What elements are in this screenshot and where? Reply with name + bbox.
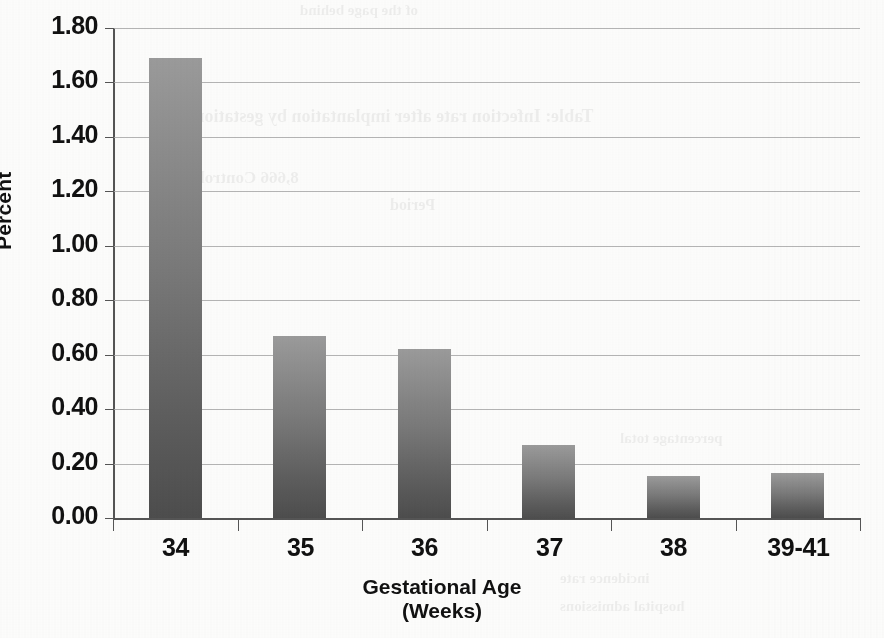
y-axis-tick-label: 1.60 — [8, 65, 98, 94]
y-axis-tick-label: 0.60 — [8, 338, 98, 367]
y-axis-tick-label: 0.40 — [8, 392, 98, 421]
x-axis-tick-label: 38 — [611, 533, 736, 562]
gridline — [113, 28, 860, 29]
x-axis-tick — [487, 518, 488, 531]
gridline — [113, 409, 860, 410]
y-axis-tick — [105, 28, 114, 29]
x-axis-tick — [860, 518, 861, 531]
y-axis-tick-label: 1.80 — [8, 11, 98, 40]
x-axis-tick — [362, 518, 363, 531]
y-axis-line — [113, 28, 115, 519]
gridline — [113, 191, 860, 192]
bar-chart: Percent 1.801.601.401.201.000.800.600.40… — [0, 0, 884, 638]
gridline — [113, 300, 860, 301]
y-axis-tick-label: 1.20 — [8, 174, 98, 203]
y-axis-tick — [105, 409, 114, 410]
y-axis-tick — [105, 300, 114, 301]
x-axis-tick — [113, 518, 114, 531]
gridline — [113, 82, 860, 83]
y-axis-tick-label: 1.00 — [8, 229, 98, 258]
y-axis-tick — [105, 246, 114, 247]
x-axis-title-line2: (Weeks) — [0, 599, 884, 623]
bar — [398, 349, 451, 518]
y-axis-tick — [105, 137, 114, 138]
y-axis-tick-label: 0.20 — [8, 447, 98, 476]
y-axis-tick — [105, 191, 114, 192]
bar — [273, 336, 326, 518]
x-axis-tick — [238, 518, 239, 531]
bar — [149, 58, 202, 518]
bar — [647, 476, 700, 518]
bar — [771, 473, 824, 518]
x-axis-title-line1: Gestational Age — [0, 575, 884, 599]
x-axis-title: Gestational Age (Weeks) — [0, 575, 884, 624]
scanned-chart-page: of the page behind Table: Infection rate… — [0, 0, 884, 638]
gridline — [113, 355, 860, 356]
y-axis-tick — [105, 355, 114, 356]
x-axis-tick-label: 35 — [238, 533, 363, 562]
x-axis-tick-label: 39-41 — [736, 533, 861, 562]
x-axis-tick-label: 37 — [487, 533, 612, 562]
x-axis-tick — [611, 518, 612, 531]
gridline — [113, 464, 860, 465]
y-axis-tick — [105, 82, 114, 83]
x-axis-tick — [736, 518, 737, 531]
y-axis-tick — [105, 464, 114, 465]
x-axis-tick-label: 34 — [113, 533, 238, 562]
y-axis-tick-label: 1.40 — [8, 120, 98, 149]
x-axis-tick-label: 36 — [362, 533, 487, 562]
y-axis-tick-label: 0.80 — [8, 283, 98, 312]
gridline — [113, 137, 860, 138]
y-axis-tick-label: 0.00 — [8, 501, 98, 530]
bar — [522, 445, 575, 519]
gridline — [113, 246, 860, 247]
